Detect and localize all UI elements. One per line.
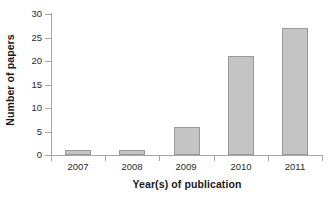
- y-axis-tick-label: 30: [8, 9, 42, 19]
- y-axis-tick-mark: [45, 108, 51, 109]
- bar: [174, 127, 200, 155]
- y-axis-line: [51, 13, 52, 156]
- y-axis-tick-label: 20: [8, 56, 42, 66]
- y-axis-tick-mark: [45, 38, 51, 39]
- x-axis-tick-label: 2010: [214, 162, 268, 172]
- y-axis-tick-mark: [45, 61, 51, 62]
- x-axis-line: [51, 155, 323, 156]
- x-axis-tick-mark: [322, 156, 323, 161]
- bar-chart: Number of papers 051015202530 2007200820…: [0, 0, 333, 203]
- x-axis-tick-mark: [268, 156, 269, 161]
- x-axis-tick-label: 2009: [159, 162, 213, 172]
- y-axis-tick-mark: [45, 132, 51, 133]
- x-axis-tick-label: 2007: [51, 162, 105, 172]
- y-axis-tick-label: 0: [8, 150, 42, 160]
- x-axis-tick-mark: [51, 156, 52, 161]
- y-axis-tick-label: 5: [8, 127, 42, 137]
- y-axis-tick-label: 10: [8, 103, 42, 113]
- y-axis-tick-mark: [45, 14, 51, 15]
- x-axis-tick-mark: [214, 156, 215, 161]
- y-axis-tick-label: 15: [8, 80, 42, 90]
- x-axis-tick-mark: [105, 156, 106, 161]
- bar: [228, 56, 254, 155]
- bar: [282, 28, 308, 155]
- x-axis-tick-mark: [159, 156, 160, 161]
- x-axis-title: Year(s) of publication: [52, 178, 322, 190]
- bar: [119, 150, 145, 155]
- x-axis-tick-label: 2008: [105, 162, 159, 172]
- y-axis-tick-mark: [45, 85, 51, 86]
- bar: [65, 150, 91, 155]
- x-axis-tick-label: 2011: [268, 162, 322, 172]
- y-axis-tick-label: 25: [8, 33, 42, 43]
